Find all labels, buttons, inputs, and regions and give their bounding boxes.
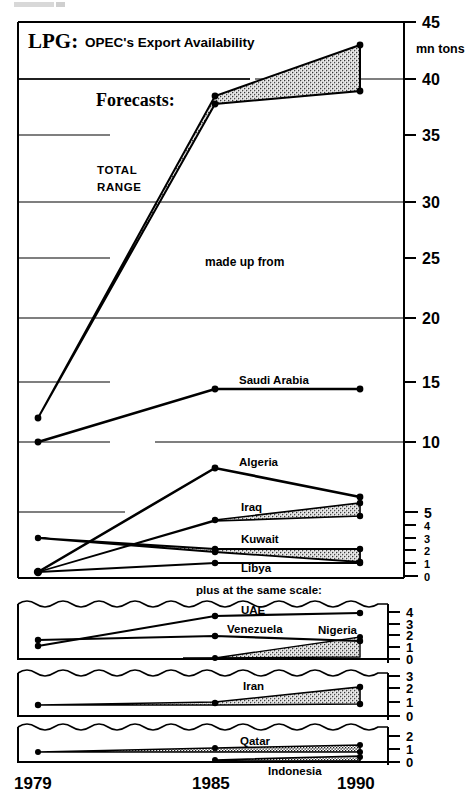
point-iraq-upper-1990 (357, 500, 363, 506)
y-tick-30: 30 (422, 194, 440, 211)
main-panel: LPG: OPEC's Export Availability Forecast… (18, 22, 404, 578)
series-libya (38, 563, 360, 572)
point-kuwait-1979 (35, 535, 41, 541)
panel4-ticks (388, 736, 400, 762)
point-venezuela-1979 (35, 637, 41, 643)
point-libya-1985 (212, 560, 218, 566)
band-indonesia (215, 756, 360, 761)
point-total-range-upper-1990 (357, 42, 364, 49)
point-total-range-lower-1985 (212, 101, 219, 108)
x-tick-1979: 1979 (14, 774, 52, 793)
point-iran-1985 (212, 700, 218, 706)
y-tick-10: 10 (422, 434, 440, 451)
panel3-tick-0: 0 (406, 709, 413, 724)
panel-qatar-indonesia: Qatar Indonesia 2 1 0 (18, 724, 413, 777)
annotation-made-up-from: made up from (205, 255, 284, 269)
panel2-tick-0: 0 (406, 652, 413, 667)
band-total-range (38, 45, 360, 418)
y-tick-45: 45 (422, 14, 440, 31)
page-title-main: LPG: (28, 29, 78, 53)
point-iraq-lower-1990 (357, 513, 363, 519)
panel3-tick-1: 1 (406, 695, 413, 710)
point-total-range-upper-1985 (212, 93, 219, 100)
band-qatar (38, 745, 360, 752)
annotation-forecasts: Forecasts: (96, 90, 175, 110)
panel3-tick-2: 2 (406, 681, 413, 696)
panel4-tick-0: 0 (406, 755, 413, 770)
point-saudi-1979 (35, 439, 42, 446)
lpg-chart-figure: LPG: OPEC's Export Availability Forecast… (0, 0, 472, 795)
x-tick-1990: 1990 (337, 774, 375, 793)
annotation-total-range-line2: RANGE (97, 181, 142, 193)
y-axis-unit-label: mn tons (416, 42, 465, 56)
y-tick-3: 3 (424, 533, 430, 545)
point-venezuela-1990 (357, 638, 363, 644)
point-saudi-1985 (212, 386, 219, 393)
point-nigeria-1985 (212, 655, 218, 661)
point-venezuela-1985 (212, 633, 218, 639)
point-libya-1990 (357, 560, 363, 566)
point-origin-cluster-1979 (34, 568, 42, 576)
point-saudi-1990 (357, 386, 364, 393)
y-tick-20: 20 (422, 310, 440, 327)
label-venezuela: Venezuela (227, 623, 283, 635)
y-axis-ticks (404, 22, 418, 576)
main-gridlines (18, 79, 404, 512)
y-tick-4: 4 (424, 520, 431, 532)
point-kuwait-lower-1985 (212, 549, 218, 555)
top-crop-artifact (14, 2, 65, 7)
annotation-plus-same-scale: plus at the same scale: (196, 584, 322, 596)
x-tick-1985: 1985 (192, 774, 230, 793)
point-qatar-1979 (35, 749, 41, 755)
panel3-wavy-top (18, 670, 388, 676)
point-iran-upper-1990 (357, 684, 363, 690)
point-iran-lower-1990 (357, 701, 363, 707)
y-tick-0: 0 (424, 571, 430, 583)
point-total-range-1979 (35, 415, 42, 422)
label-qatar: Qatar (240, 735, 271, 747)
panel3-ticks (388, 676, 400, 716)
point-total-range-lower-1990 (357, 88, 364, 95)
point-indonesia-1985 (212, 757, 218, 763)
point-uae-1979 (35, 643, 41, 649)
panel4-wavy-top (18, 724, 388, 730)
point-qatar-1985 (212, 745, 218, 751)
y-tick-5: 5 (424, 505, 432, 521)
panel2-ticks (388, 612, 400, 659)
y-tick-35: 35 (422, 127, 440, 144)
label-libya: Libya (241, 562, 272, 574)
point-uae-1990 (357, 610, 363, 616)
label-algeria: Algeria (239, 456, 279, 468)
label-iraq: Iraq (241, 501, 262, 513)
band-iran (38, 687, 360, 705)
point-algeria-1990 (357, 494, 364, 501)
panel-iran: Iran 3 2 1 0 (18, 669, 413, 724)
label-iran: Iran (243, 680, 264, 692)
series-uae (38, 613, 360, 646)
point-qatar-upper-1990 (357, 742, 363, 748)
y-tick-40: 40 (422, 71, 440, 88)
point-iraq-1985 (212, 517, 218, 523)
chart-canvas: LPG: OPEC's Export Availability Forecast… (0, 0, 472, 795)
panel2-wavy-top (18, 601, 388, 607)
label-saudi-arabia: Saudi Arabia (239, 374, 309, 386)
point-kuwait-upper-1990 (357, 546, 363, 552)
y-tick-1: 1 (424, 558, 430, 570)
label-kuwait: Kuwait (241, 533, 279, 545)
y-tick-15: 15 (422, 374, 440, 391)
point-uae-1985 (212, 613, 218, 619)
band-iraq (38, 503, 360, 572)
point-indonesia-1990 (357, 754, 363, 760)
annotation-total-range-line1: TOTAL (97, 164, 137, 176)
page-title-sub: OPEC's Export Availability (85, 35, 255, 50)
label-uae: UAE (241, 604, 266, 616)
y-axis-main: 45 mn tons 40 35 30 25 20 15 10 5 4 3 2 … (404, 14, 465, 583)
y-tick-25: 25 (422, 250, 440, 267)
point-algeria-1985 (212, 465, 219, 472)
panel-uae-venezuela-nigeria: UAE Venezuela Nigeria 4 3 2 1 0 (18, 601, 414, 667)
point-iran-1979 (35, 702, 41, 708)
label-nigeria: Nigeria (318, 624, 358, 636)
series-saudi-arabia (38, 389, 360, 442)
label-indonesia: Indonesia (268, 765, 322, 777)
y-tick-2: 2 (424, 545, 430, 557)
